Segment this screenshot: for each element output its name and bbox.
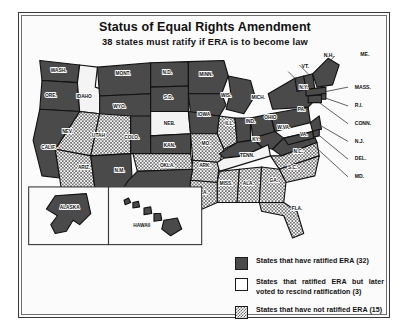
legend-label-rescind: States that ratified ERA but later voted… xyxy=(256,277,384,298)
legend-label-not-ratified: States that have not ratified ERA (15) xyxy=(256,305,382,315)
state-label-wyo: WYO. xyxy=(113,104,126,109)
page-title: Status of Equal Rights Amendment xyxy=(19,20,391,34)
state-mt xyxy=(97,63,150,96)
state-label-ga: GA. xyxy=(270,178,278,183)
state-label-ariz: ARIZ. xyxy=(78,165,90,170)
page-subtitle: 38 states must ratify if ERA is to becom… xyxy=(19,37,391,47)
state-label-mont: MONT. xyxy=(116,71,131,76)
state-me xyxy=(313,58,340,87)
state-label-calif: CALIF. xyxy=(41,145,56,150)
state-label-fla: FLA. xyxy=(292,206,303,211)
state-label-nev: NEV. xyxy=(62,129,73,134)
leader-label-mass: MASS. xyxy=(355,84,372,90)
leader-label-nj: N.J. xyxy=(355,138,365,144)
state-label-ohio: OHIO xyxy=(264,115,276,120)
state-label-minn: MINN. xyxy=(199,72,212,77)
us-map: WASH.ORE.IDAHOMONT.N.D.MINN.WYO.S.D.WIS.… xyxy=(22,47,388,247)
legend-item-not-ratified: States that have not ratified ERA (15) xyxy=(235,305,385,319)
inset-hawaii: HAWAII xyxy=(109,187,202,245)
leader-label-conn: CONN. xyxy=(355,120,372,126)
figure-frame: Status of Equal Rights Amendment 38 stat… xyxy=(18,12,390,318)
inset-alaska: ALASKA xyxy=(29,187,109,245)
leader-label-md: MD. xyxy=(355,173,365,179)
legend-item-ratified: States that have ratified ERA (32) xyxy=(235,256,385,270)
leader-label-me: ME. xyxy=(360,51,370,57)
state-label-nm: N.M. xyxy=(115,169,125,174)
state-label-ny: N.Y. xyxy=(299,85,308,90)
legend-swatch-not-ratified-icon xyxy=(235,306,248,319)
legend-swatch-rescind-icon xyxy=(235,278,248,291)
state-label-ala: ALA. xyxy=(243,181,254,186)
state-nj xyxy=(310,116,321,132)
legend: States that have ratified ERA (32) State… xyxy=(235,256,385,326)
legend-item-rescind: States that ratified ERA but later voted… xyxy=(235,277,385,298)
state-ct xyxy=(308,95,321,103)
leader-label-ri: R.I. xyxy=(355,102,364,108)
state-label-tenn: TENN. xyxy=(240,153,254,158)
state-label-ky: KY. xyxy=(252,137,259,142)
state-label-mo: MO. xyxy=(202,141,211,146)
legend-label-ratified: States that have ratified ERA (32) xyxy=(256,256,369,266)
inset-label-hawaii: HAWAII xyxy=(133,223,150,228)
state-label-sd: S.D. xyxy=(164,95,173,100)
state-label-neb: NEB. xyxy=(164,121,175,126)
legend-swatch-ratified-icon xyxy=(235,257,248,270)
state-label-kan: KAN. xyxy=(164,143,176,148)
state-label-utah: UTAH xyxy=(92,133,105,138)
leader-label-vt: VT. xyxy=(301,63,309,69)
state-label-ark: ARK. xyxy=(199,163,211,168)
state-mn xyxy=(188,60,228,93)
state-label-ore: ORE. xyxy=(45,93,57,98)
state-label-nc: N.C. xyxy=(293,149,303,154)
state-label-mich: MICH. xyxy=(252,95,265,100)
us-map-svg: WASH.ORE.IDAHOMONT.N.D.MINN.WYO.S.D.WIS.… xyxy=(22,47,388,247)
state-label-wva: W.VA. xyxy=(277,125,290,130)
state-ri xyxy=(321,94,325,100)
state-label-iowa: IOWA xyxy=(198,112,211,117)
map-figure: Status of Equal Rights Amendment 38 stat… xyxy=(0,0,408,334)
state-label-wis: WIS. xyxy=(221,93,231,98)
state-label-ill: ILL. xyxy=(225,121,233,126)
leader-label-del: DEL. xyxy=(355,155,367,161)
state-label-nd: N.D. xyxy=(163,70,172,75)
state-label-miss: MISS. xyxy=(220,181,233,186)
state-label-wash: WASH. xyxy=(51,68,67,73)
leader-label-nh: N.H. xyxy=(324,52,335,58)
state-label-pa: PA. xyxy=(298,108,306,113)
state-mo xyxy=(191,134,224,163)
state-label-sc: S.C. xyxy=(288,165,297,170)
state-label-va: VA. xyxy=(300,132,308,137)
state-label-idaho: IDAHO xyxy=(76,94,92,99)
state-label-ind: IND. xyxy=(246,119,256,124)
state-label-colo: COLO. xyxy=(124,135,139,140)
state-ms xyxy=(217,169,239,202)
inset-label-alaska: ALASKA xyxy=(60,205,80,210)
state-label-okla: OKLA. xyxy=(160,163,175,168)
